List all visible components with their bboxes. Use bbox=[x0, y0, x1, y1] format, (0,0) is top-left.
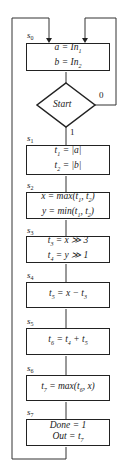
state-line: a = In1 bbox=[55, 42, 82, 57]
state-label-s2: s2 bbox=[27, 181, 34, 191]
state-box-s0: a = In1 b = In2 bbox=[26, 43, 110, 71]
state-label-s0: s0 bbox=[27, 31, 34, 41]
edge-label-true: 1 bbox=[70, 127, 75, 137]
state-label-s3: s3 bbox=[27, 226, 34, 236]
state-label-s1: s1 bbox=[27, 134, 34, 144]
state-line: t4 = y ≫ 1 bbox=[48, 250, 89, 265]
state-label-s5: s5 bbox=[27, 317, 34, 327]
state-line: t6 = t4 + t5 bbox=[48, 334, 87, 349]
state-line: b = In2 bbox=[55, 57, 82, 72]
state-label-s6: s6 bbox=[27, 364, 34, 374]
state-line: t2 = |b| bbox=[55, 160, 82, 175]
state-line: t1 = |a| bbox=[55, 145, 82, 160]
state-line: t3 = x ≫ 3 bbox=[48, 235, 89, 250]
state-line: t7 = max(t6, x) bbox=[41, 381, 95, 396]
state-box-s4: t5 = x − t3 bbox=[26, 282, 110, 308]
decision-label-start: Start bbox=[53, 99, 71, 109]
state-box-s7: Done = 1 Out = t7 bbox=[26, 419, 110, 446]
state-box-s6: t7 = max(t6, x) bbox=[26, 375, 110, 401]
state-line: Out = t7 bbox=[52, 431, 83, 446]
state-label-s7: s7 bbox=[27, 408, 34, 418]
state-line: y = min(t1, t2) bbox=[42, 206, 94, 221]
edge-label-false: 0 bbox=[99, 90, 104, 100]
state-label-s4: s4 bbox=[27, 271, 34, 281]
state-box-s2: x = max(t1, t2) y = min(t1, t2) bbox=[26, 192, 110, 219]
state-line: t5 = x − t3 bbox=[49, 288, 87, 303]
state-box-s5: t6 = t4 + t5 bbox=[26, 328, 110, 355]
state-box-s3: t3 = x ≫ 3 t4 = y ≫ 1 bbox=[26, 236, 110, 263]
state-box-s1: t1 = |a| t2 = |b| bbox=[26, 145, 110, 175]
state-line: x = max(t1, t2) bbox=[41, 191, 95, 206]
state-line: Done = 1 bbox=[50, 420, 87, 431]
